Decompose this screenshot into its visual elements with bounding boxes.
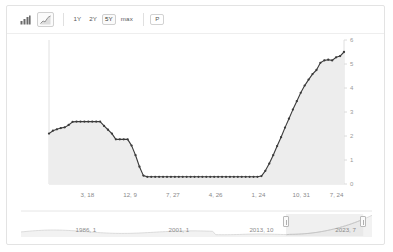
data-point-marker [248, 176, 250, 178]
data-point-marker [162, 176, 164, 178]
bar-chart-icon-button[interactable] [17, 12, 34, 27]
navigator-tick-label: 2023, 7 [335, 227, 356, 233]
data-point-marker [296, 100, 298, 102]
data-point-marker [193, 176, 195, 178]
data-point-marker [178, 176, 180, 178]
navigator-handle-left[interactable] [283, 216, 289, 227]
series-area [49, 52, 344, 184]
navigator-tick-label: 2013, 10 [249, 227, 273, 233]
y-tick-label: 2 [350, 133, 353, 139]
toolbar-divider-1 [63, 13, 64, 26]
x-tick-label: 10, 31 [293, 192, 310, 198]
data-point-marker [48, 132, 50, 134]
data-point-marker [201, 176, 203, 178]
data-point-marker [280, 136, 282, 138]
data-point-marker [335, 56, 337, 58]
data-point-marker [343, 51, 345, 53]
y-tick-label: 1 [350, 157, 353, 163]
data-point-marker [158, 176, 160, 178]
data-point-marker [245, 176, 247, 178]
data-point-marker [119, 138, 121, 140]
navigator-tick-label: 2001, 1 [169, 227, 190, 233]
data-point-marker [304, 84, 306, 86]
chart-toolbar: 1Y 2Y 5Y max P [7, 6, 384, 34]
range-button-2y[interactable]: 2Y [86, 14, 101, 24]
data-point-marker [130, 144, 132, 146]
y-tick-label: 0 [350, 181, 353, 187]
data-point-marker [284, 126, 286, 128]
data-point-marker [170, 176, 172, 178]
data-point-marker [256, 176, 258, 178]
data-point-marker [300, 92, 302, 94]
chart-card: 1Y 2Y 5Y max P 0123456 3, 1812, 97, 274,… [6, 5, 385, 245]
plot-svg [7, 34, 386, 206]
data-point-marker [319, 62, 321, 64]
x-tick-label: 7, 24 [330, 192, 344, 198]
data-point-marker [339, 55, 341, 57]
data-point-marker [182, 176, 184, 178]
data-point-marker [154, 176, 156, 178]
data-point-marker [79, 120, 81, 122]
data-point-marker [209, 176, 211, 178]
range-button-5y[interactable]: 5Y [102, 14, 117, 24]
data-point-marker [60, 127, 62, 129]
data-point-marker [276, 145, 278, 147]
data-point-marker [71, 121, 73, 123]
data-point-marker [189, 176, 191, 178]
data-point-marker [221, 176, 223, 178]
data-point-marker [268, 162, 270, 164]
data-point-marker [213, 176, 215, 178]
data-point-marker [134, 154, 136, 156]
range-button-max[interactable]: max [117, 14, 136, 24]
data-point-marker [237, 176, 239, 178]
data-point-marker [68, 124, 70, 126]
data-point-marker [311, 73, 313, 75]
data-point-marker [331, 59, 333, 61]
data-point-marker [323, 59, 325, 61]
data-point-marker [75, 120, 77, 122]
data-point-marker [174, 176, 176, 178]
data-point-marker [150, 176, 152, 178]
y-tick-label: 5 [350, 61, 353, 67]
data-point-marker [87, 120, 89, 122]
data-point-marker [127, 138, 129, 140]
y-tick-label: 6 [350, 37, 353, 43]
data-point-marker [64, 126, 66, 128]
toolbar-divider-2 [143, 13, 144, 26]
x-tick-label: 7, 27 [166, 192, 180, 198]
data-point-marker [288, 118, 290, 120]
data-point-marker [225, 176, 227, 178]
data-point-marker [307, 78, 309, 80]
data-point-marker [107, 129, 109, 131]
data-point-marker [264, 170, 266, 172]
data-point-marker [52, 130, 54, 132]
range-navigator[interactable]: 1986, 12001, 12013, 102023, 7 [7, 206, 386, 244]
data-point-marker [103, 125, 105, 127]
data-point-marker [166, 176, 168, 178]
data-point-marker [123, 138, 125, 140]
data-point-marker [292, 108, 294, 110]
main-plot: 0123456 3, 1812, 97, 274, 261, 2410, 317… [7, 34, 386, 206]
data-point-marker [56, 128, 58, 130]
data-point-marker [146, 176, 148, 178]
navigator-svg [7, 206, 386, 244]
data-point-marker [83, 120, 85, 122]
data-point-marker [272, 154, 274, 156]
line-chart-icon [40, 15, 51, 25]
data-point-marker [217, 176, 219, 178]
x-tick-label: 3, 18 [80, 192, 94, 198]
x-tick-label: 1, 24 [252, 192, 266, 198]
data-point-marker [229, 176, 231, 178]
line-chart-icon-button[interactable] [37, 12, 54, 27]
print-button[interactable]: P [150, 14, 164, 25]
range-button-1y[interactable]: 1Y [70, 14, 85, 24]
data-point-marker [186, 176, 188, 178]
y-tick-label: 4 [350, 85, 353, 91]
data-point-marker [138, 166, 140, 168]
navigator-handle-right[interactable] [360, 216, 366, 227]
data-point-marker [91, 120, 93, 122]
data-point-marker [142, 174, 144, 176]
data-point-marker [95, 120, 97, 122]
data-point-marker [315, 69, 317, 71]
x-tick-label: 12, 9 [123, 192, 137, 198]
